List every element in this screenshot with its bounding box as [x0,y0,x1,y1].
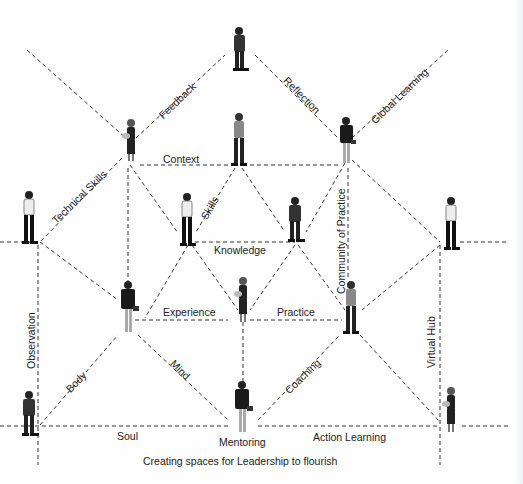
label-practice: Practice [277,307,315,318]
diagram-caption: Creating spaces for Leadership to flouri… [143,455,337,467]
person-icon-mentoring [231,380,255,436]
person-icon-bottom-right [441,386,461,434]
person-icon-upper-right [336,116,358,166]
label-knowledge: Knowledge [214,245,266,256]
person-icon-upper-left [121,118,141,162]
person-icon-bottom-left [18,390,42,438]
person-icon-center-right [284,196,308,244]
label-community-of-practice: Community of Practice [336,188,347,294]
label-virtual-hub: Virtual Hub [426,316,437,368]
person-icon-experience [117,280,141,336]
person-icon-right [440,196,462,252]
label-context: Context [163,154,199,165]
label-soul: Soul [117,431,138,442]
person-icon-center [233,276,253,324]
leadership-diagram: Feedback Reflection Global Learning Cont… [0,0,523,484]
label-mentoring: Mentoring [219,437,266,448]
label-action-learning: Action Learning [313,432,386,443]
label-experience: Experience [163,307,216,318]
person-icon-upper-center [228,112,250,168]
person-icon-skills [176,192,198,248]
label-observation: Observation [26,312,37,369]
person-icon-left [18,190,42,246]
person-icon-top [228,26,252,72]
